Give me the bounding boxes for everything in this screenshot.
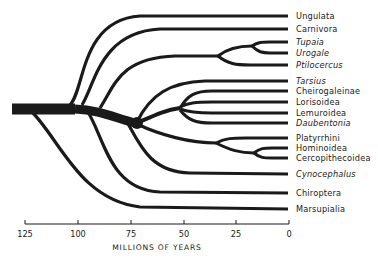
taxon-label-tarsius: Tarsius: [296, 76, 326, 86]
axis-tick-label-125: 125: [17, 229, 33, 239]
taxon-label-cercopithecoidea: Cercopithecoidea: [296, 153, 371, 163]
taxon-label-ptilocercus: Ptilocercus: [296, 60, 343, 70]
taxon-label-lorisoidea: Lorisoidea: [296, 97, 340, 107]
taxon-label-cynocephalus: Cynocephalus: [296, 169, 356, 179]
branch-tupaia-urogale: [218, 46, 252, 56]
taxon-label-chiroptera: Chiroptera: [296, 188, 341, 198]
axis-tick-label-75: 75: [126, 229, 136, 239]
branch-urogale: [252, 46, 288, 53]
axis-title: MILLIONS OF YEARS: [112, 243, 201, 252]
taxon-label-lemuroidea: Lemuroidea: [296, 108, 346, 118]
branch-lemuroidea: [180, 109, 288, 113]
branch-catarrhini: [216, 143, 254, 153]
taxon-label-carnivora: Carnivora: [296, 24, 337, 34]
branch-cheirogaleinae: [180, 91, 288, 108]
taxon-label-platyrrhini: Platyrrhini: [296, 133, 340, 143]
taxon-label-ungulata: Ungulata: [296, 11, 335, 21]
axis-tick-label-0: 0: [286, 229, 291, 239]
branch-lorisoidea: [180, 102, 288, 107]
taxon-label-daubentonia: Daubentonia: [296, 118, 351, 128]
branch-ptilocercus: [218, 56, 288, 65]
axis-tick-label-100: 100: [70, 229, 86, 239]
taxon-label-marsupialia: Marsupialia: [296, 204, 345, 214]
taxon-label-hominoidea: Hominoidea: [296, 143, 347, 153]
branch-hominoidea: [254, 148, 288, 153]
taxon-label-cheirogaleinae: Cheirogaleinae: [296, 86, 360, 96]
axis-tick-label-25: 25: [231, 229, 241, 239]
primate-stem: [75, 109, 135, 123]
axis-tick-label-50: 50: [179, 229, 189, 239]
branch-carnivora: [82, 29, 288, 105]
branch-cercopithecoidea: [254, 153, 288, 158]
branch-anthropoidea: [137, 124, 216, 143]
branch-platyrrhini: [216, 138, 288, 143]
taxon-label-tupaia: Tupaia: [296, 37, 324, 47]
branch-marsupialia: [32, 112, 288, 209]
taxon-label-urogale: Urogale: [296, 48, 329, 58]
branch-tupaia: [252, 42, 288, 46]
